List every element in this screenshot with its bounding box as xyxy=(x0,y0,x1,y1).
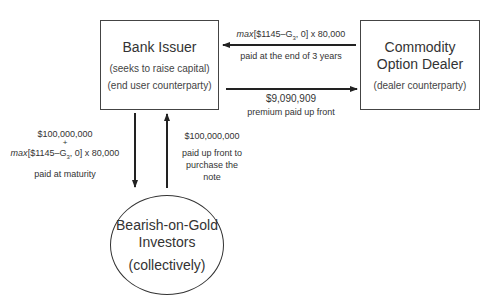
investors-to-bank-amount: $100,000,000 xyxy=(172,130,252,142)
investors-to-bank-note-3: note xyxy=(172,171,252,183)
dealer-counterparty: (dealer counterparty) xyxy=(374,79,467,92)
dealer-to-bank-note: paid at the end of 3 years xyxy=(228,50,354,62)
investors-to-bank-note-1: paid up front to xyxy=(172,147,252,159)
bank-issuer-role: (seeks to raise capital) xyxy=(109,62,209,75)
bank-to-dealer-note: premium paid up front xyxy=(228,106,354,118)
investors-collectively: (collectively) xyxy=(128,257,205,274)
investors-to-bank-note-2: purchase the xyxy=(172,159,252,171)
bank-to-investors-note: paid at maturity xyxy=(0,168,130,180)
investors-ellipse: Bearish-on-Gold Investors (collectively) xyxy=(110,195,224,295)
bank-issuer-title: Bank Issuer xyxy=(123,39,197,56)
bank-to-investors-formula: max[$1145–G3, 0] x 80,000 xyxy=(0,147,130,163)
investors-title-line2: Investors xyxy=(139,234,196,251)
bank-issuer-box: Bank Issuer (seeks to raise capital) (en… xyxy=(100,20,219,110)
bank-issuer-counterparty: (end user counterparty) xyxy=(108,79,212,92)
bank-to-dealer-amount: $9,090,909 xyxy=(228,93,354,105)
dealer-title-line1: Commodity xyxy=(385,39,456,56)
investors-title-line1: Bearish-on-Gold xyxy=(116,217,218,234)
dealer-to-bank-formula: max[$1145–G3, 0] x 80,000 xyxy=(228,28,354,44)
dealer-title-line2: Option Dealer xyxy=(377,56,463,73)
dealer-box: Commodity Option Dealer (dealer counterp… xyxy=(360,20,480,110)
